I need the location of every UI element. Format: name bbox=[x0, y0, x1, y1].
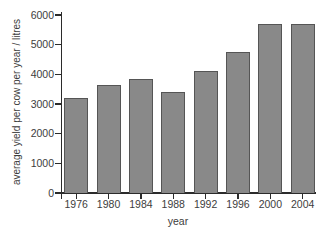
bar-1984 bbox=[129, 79, 153, 193]
y-tick-label-3000: 3000 bbox=[22, 99, 54, 110]
y-axis-tick bbox=[55, 103, 61, 104]
y-axis-title: average yield per cow per year / litres bbox=[11, 19, 22, 185]
bar-1992 bbox=[194, 71, 218, 193]
y-axis-tick bbox=[55, 163, 61, 164]
y-tick-label-4000: 4000 bbox=[22, 69, 54, 80]
x-tick-label-1976: 1976 bbox=[60, 199, 92, 210]
y-tick-label-6000: 6000 bbox=[22, 10, 54, 21]
x-tick-label-2004: 2004 bbox=[287, 199, 318, 210]
y-axis-tick bbox=[55, 74, 61, 75]
bar-1976 bbox=[64, 98, 88, 193]
y-tick-label-0: 0 bbox=[22, 188, 54, 199]
x-axis-title: year bbox=[168, 215, 188, 227]
x-tick-label-1988: 1988 bbox=[157, 199, 189, 210]
y-tick-label-2000: 2000 bbox=[22, 128, 54, 139]
bar-1980 bbox=[97, 85, 121, 193]
y-axis-tick bbox=[55, 44, 61, 45]
bar-1996 bbox=[226, 52, 250, 193]
x-tick-label-1996: 1996 bbox=[222, 199, 254, 210]
y-axis-tick bbox=[55, 133, 61, 134]
x-tick-label-1984: 1984 bbox=[125, 199, 157, 210]
y-axis-line bbox=[61, 12, 62, 199]
y-axis-tick bbox=[55, 14, 61, 15]
x-tick-label-1992: 1992 bbox=[190, 199, 222, 210]
bar-1988 bbox=[161, 92, 185, 193]
y-axis-tick bbox=[55, 192, 61, 193]
bar-2000 bbox=[258, 24, 282, 193]
y-tick-label-1000: 1000 bbox=[22, 158, 54, 169]
x-tick-label-2000: 2000 bbox=[254, 199, 286, 210]
bar-chart: average yield per cow per year / litres … bbox=[0, 0, 318, 239]
y-tick-label-5000: 5000 bbox=[22, 39, 54, 50]
x-tick-label-1980: 1980 bbox=[93, 199, 125, 210]
bar-2004 bbox=[291, 24, 315, 193]
